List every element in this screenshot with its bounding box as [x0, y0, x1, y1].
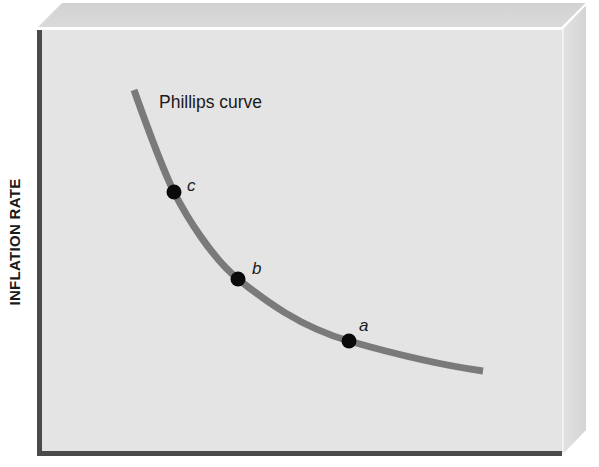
- point-b-marker: [231, 272, 246, 287]
- y-axis-label: INFLATION RATE: [6, 179, 23, 306]
- panel-front-face: [39, 30, 562, 453]
- phillips-curve-figure: Phillips curve c b a INFLATION RATE: [0, 0, 599, 467]
- point-b-label: b: [252, 259, 261, 278]
- curve-label: Phillips curve: [159, 92, 262, 112]
- panel-side-face: [563, 5, 586, 454]
- panel-top-face: [38, 3, 586, 27]
- point-c-marker: [167, 185, 182, 200]
- point-a-marker: [342, 334, 357, 349]
- point-c-label: c: [187, 176, 196, 195]
- point-a-label: a: [359, 316, 368, 335]
- diagram-canvas: Phillips curve c b a: [0, 0, 599, 467]
